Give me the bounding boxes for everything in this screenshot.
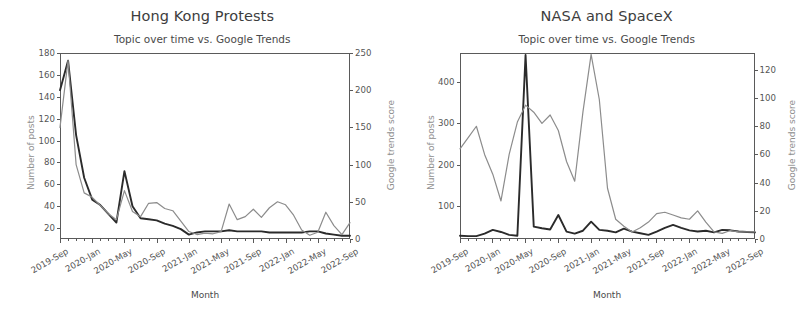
x-tick-mark — [213, 239, 214, 241]
y-tick-mark — [57, 228, 60, 229]
x-tick-mark — [574, 239, 575, 241]
series-line-posts — [460, 55, 755, 236]
x-tick-mark — [157, 239, 158, 243]
x-tick-mark — [318, 239, 319, 243]
x-tick-mark — [714, 239, 715, 241]
x-tick-mark — [705, 239, 706, 241]
y2-tick-label: 50 — [355, 197, 366, 207]
x-tick-mark — [599, 239, 600, 241]
x-tick-mark — [310, 239, 311, 241]
x-tick-mark — [476, 239, 477, 241]
y-tick-mark — [457, 206, 460, 207]
series-line-trends — [60, 60, 350, 235]
x-tick-mark — [566, 239, 567, 241]
y-tick-mark — [57, 184, 60, 185]
y-tick-label: 120 — [39, 114, 55, 124]
chart-lines-nasa-spacex — [460, 53, 755, 239]
y2-tick-label: 40 — [760, 178, 771, 188]
x-tick-mark — [697, 239, 698, 241]
x-tick-mark — [681, 239, 682, 241]
y-tick-mark — [57, 206, 60, 207]
x-tick-mark — [550, 239, 551, 241]
y-tick-label: 100 — [438, 201, 454, 211]
x-tick-mark — [342, 239, 343, 241]
x-tick-mark — [525, 239, 526, 243]
y-tick-label: 400 — [438, 77, 454, 87]
x-tick-mark — [746, 239, 747, 241]
y2-tick-label: 100 — [760, 93, 776, 103]
x-tick-mark — [189, 239, 190, 243]
x-tick-mark — [253, 239, 254, 243]
x-tick-mark — [334, 239, 335, 241]
y-axis-right-label-hong-kong: Google trends score — [386, 90, 396, 200]
x-tick-mark — [302, 239, 303, 241]
y2-tick-label: 20 — [760, 206, 771, 216]
y-axis-left-label-hong-kong: Number of posts — [26, 100, 36, 190]
y2-tick-label: 0 — [355, 234, 360, 244]
x-tick-mark — [615, 239, 616, 241]
x-tick-mark — [607, 239, 608, 241]
x-tick-mark — [261, 239, 262, 241]
y-tick-label: 180 — [39, 48, 55, 58]
y-tick-label: 160 — [39, 70, 55, 80]
x-tick-mark — [689, 239, 690, 243]
y2-tick-label: 200 — [355, 85, 371, 95]
x-tick-mark — [100, 239, 101, 241]
x-tick-mark — [278, 239, 279, 241]
x-tick-mark — [116, 239, 117, 241]
x-tick-mark — [722, 239, 723, 243]
x-tick-mark — [181, 239, 182, 241]
y-tick-mark — [457, 123, 460, 124]
x-tick-mark — [591, 239, 592, 243]
y2-tick-mark — [350, 127, 353, 128]
panel-axis-title-hong-kong: Topic over time vs. Google Trends — [0, 33, 405, 45]
x-tick-mark — [730, 239, 731, 241]
x-tick-mark — [640, 239, 641, 241]
y2-tick-label: 250 — [355, 48, 371, 58]
x-tick-mark — [68, 239, 69, 241]
y-tick-mark — [57, 141, 60, 142]
x-axis-label-nasa-spacex: Month — [460, 290, 755, 300]
x-tick-mark — [484, 239, 485, 241]
x-tick-mark — [500, 239, 501, 241]
x-tick-mark — [141, 239, 142, 241]
y2-tick-mark — [755, 98, 758, 99]
plot-area-hong-kong: 20406080100120140160180 050100150200250 … — [60, 53, 350, 239]
panel-axis-title-nasa-spacex: Topic over time vs. Google Trends — [405, 33, 809, 45]
y2-tick-label: 100 — [355, 160, 371, 170]
x-tick-mark — [76, 239, 77, 241]
y-tick-label: 300 — [438, 118, 454, 128]
x-tick-mark — [632, 239, 633, 241]
x-tick-mark — [92, 239, 93, 243]
panel-suptitle-hong-kong: Hong Kong Protests — [0, 8, 405, 24]
y-tick-mark — [57, 97, 60, 98]
series-line-trends — [460, 54, 755, 233]
y2-tick-mark — [755, 126, 758, 127]
x-tick-mark — [173, 239, 174, 241]
x-tick-mark — [673, 239, 674, 241]
y2-tick-label: 150 — [355, 122, 371, 132]
y2-tick-label: 80 — [760, 121, 771, 131]
y-tick-mark — [57, 53, 60, 54]
x-tick-mark — [84, 239, 85, 241]
x-tick-mark — [492, 239, 493, 243]
y2-tick-mark — [755, 211, 758, 212]
x-tick-mark — [237, 239, 238, 241]
x-tick-mark — [350, 239, 351, 243]
y2-tick-mark — [350, 90, 353, 91]
x-tick-mark — [108, 239, 109, 241]
y-tick-mark — [57, 162, 60, 163]
y-tick-label: 40 — [44, 201, 55, 211]
y-tick-label: 200 — [438, 160, 454, 170]
y-tick-mark — [457, 82, 460, 83]
y-tick-label: 20 — [44, 223, 55, 233]
x-tick-mark — [286, 239, 287, 243]
x-tick-mark — [205, 239, 206, 241]
x-tick-mark — [165, 239, 166, 241]
x-tick-mark — [656, 239, 657, 243]
x-axis-label-hong-kong: Month — [60, 290, 350, 300]
panel-suptitle-nasa-spacex: NASA and SpaceX — [405, 8, 809, 24]
y2-tick-mark — [755, 183, 758, 184]
x-tick-mark — [326, 239, 327, 241]
x-tick-mark — [60, 239, 61, 243]
